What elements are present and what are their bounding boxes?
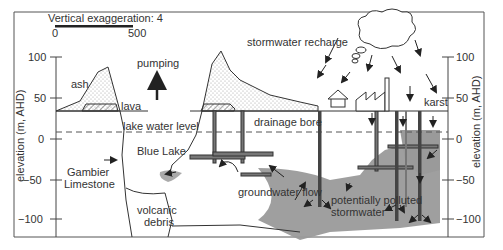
scale-bar-max: 500 (128, 27, 146, 39)
svg-text:0: 0 (38, 133, 44, 145)
drainage-bore-label: drainage bore (254, 116, 322, 128)
lava-flow-left (82, 104, 118, 111)
polluted-label-2: stormwater (331, 206, 386, 218)
left-axis-label: elevation (m, AHD) (14, 90, 26, 182)
right-axis-label: elevation (m, AHD) (470, 76, 482, 168)
karst-label: karst (424, 96, 448, 108)
lava-flow-right (201, 104, 235, 111)
blue-lake-label: Blue Lake (137, 145, 186, 157)
scale-bar-title: Vertical exaggeration: 4 (48, 12, 163, 24)
svg-text:−50: −50 (456, 174, 475, 186)
stormwater-recharge-label: stormwater recharge (247, 36, 348, 48)
gambier-label-1: Gambier (67, 166, 110, 178)
svg-text:−100: −100 (18, 213, 43, 225)
svg-text:50: 50 (34, 92, 46, 104)
polluted-label-1: potentially polluted (331, 194, 422, 206)
cave-flow-arrow (220, 162, 238, 172)
svg-text:0: 0 (456, 133, 462, 145)
volcanic-label-1: volcanic (137, 204, 177, 216)
svg-text:100: 100 (28, 51, 46, 63)
svg-text:−100: −100 (456, 213, 481, 225)
volcanic-label-2: debris (144, 216, 174, 228)
svg-text:50: 50 (456, 92, 468, 104)
left-elevation-axis: 100 50 0 −50 −100 elevation (m, AHD) (14, 51, 62, 237)
right-elevation-axis: 100 50 0 −50 −100 elevation (m, AHD) (442, 51, 482, 237)
svg-text:100: 100 (456, 51, 474, 63)
pumping-label: pumping (137, 57, 179, 69)
ash-label: ash (71, 78, 89, 90)
gambier-label-2: Limestone (64, 178, 115, 190)
cloud-icon (352, 9, 416, 63)
factory-icon (356, 78, 389, 111)
lake-seepage (160, 170, 182, 182)
ash-deposit-right (202, 51, 318, 111)
groundwater-flow-label: groundwater flow (238, 186, 322, 198)
scale-bar: Vertical exaggeration: 4 0 500 (48, 12, 163, 39)
house-icon (328, 90, 348, 107)
lake-water-level-label: lake water level (123, 120, 199, 132)
scale-bar-min: 0 (52, 27, 58, 39)
lava-label: lava (121, 100, 142, 112)
blue-lake-cross-section-diagram: Vertical exaggeration: 4 0 500 100 50 0 … (0, 0, 503, 250)
